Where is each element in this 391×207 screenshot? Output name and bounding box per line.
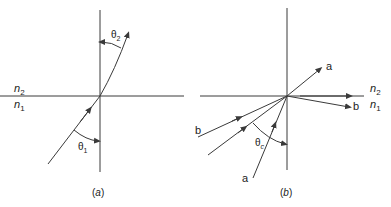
medium-n1-label-a: n1	[14, 98, 25, 113]
angle-arc-theta1	[74, 130, 98, 141]
medium-n2-label-a: n2	[14, 82, 25, 97]
refraction-diagram: n2 n1 θ1 θ2 (a) n2 n1 a b b a θc (b)	[0, 0, 391, 207]
ray-a-refracted	[287, 69, 320, 96]
panel-a-labels: n2 n1 θ1 θ2 (a)	[14, 29, 121, 198]
ray-b-out-label: b	[353, 100, 359, 112]
ray-b-incident	[198, 96, 287, 137]
ray-a-out-label: a	[326, 60, 333, 72]
caption-b: (b)	[280, 187, 292, 198]
incident-ray-arrow	[80, 109, 90, 122]
theta2-label: θ2	[111, 29, 121, 42]
theta-c-label: θc	[255, 137, 265, 150]
ray-b-reflected	[287, 96, 349, 107]
medium-n2-label-b: n2	[370, 82, 381, 97]
ray-b-in-label: b	[195, 124, 201, 136]
refracted-ray-a	[100, 34, 128, 96]
ray-a-in-label: a	[242, 172, 249, 184]
angle-arc-theta2	[101, 42, 121, 48]
ray-a-incident-arrow	[272, 124, 275, 132]
medium-n1-label-b: n1	[370, 98, 381, 113]
theta1-label: θ1	[78, 141, 88, 154]
ray-b-incident-arrow	[232, 118, 240, 122]
ray-critical-arrow	[238, 128, 245, 134]
panel-b-labels: n2 n1 a b b a θc (b)	[195, 60, 381, 198]
panel-b	[198, 8, 364, 178]
panel-a	[0, 10, 184, 172]
caption-a: (a)	[92, 187, 104, 198]
